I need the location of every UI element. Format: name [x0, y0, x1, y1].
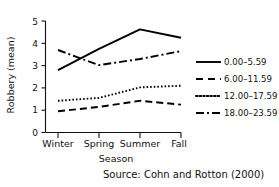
- y-tick-label-0: 0: [32, 128, 38, 138]
- robbery-season-line-chart: Robbery (mean) 5 4 3 2 1 0: [0, 0, 279, 187]
- legend-item-6-00-11-59[interactable]: 6.00–11.59: [196, 74, 272, 84]
- x-tick-label-spring: Spring: [84, 138, 115, 149]
- x-tick-label-winter: Winter: [42, 138, 73, 149]
- y-tick-label-2: 2: [32, 83, 38, 93]
- y-tick-label-3: 3: [32, 61, 38, 71]
- legend-item-0-00-5-59[interactable]: 0.00–5.59: [196, 57, 267, 67]
- figure-container: Robbery (mean) 5 4 3 2 1 0: [0, 0, 279, 187]
- series-line-12-00-17-59: [58, 86, 181, 101]
- legend-item-12-00-17-59[interactable]: 12.00–17.59: [196, 91, 278, 101]
- y-axis-title: Robbery (mean): [5, 37, 16, 114]
- series-line-0-00-5-59: [58, 29, 181, 70]
- legend-label-0-00-5-59: 0.00–5.59: [224, 57, 267, 67]
- y-tick-label-5: 5: [32, 17, 38, 27]
- legend-item-18-00-23-59[interactable]: 18.00–23.59: [196, 108, 278, 118]
- series-line-6-00-11-59: [58, 101, 181, 112]
- legend-label-18-00-23-59: 18.00–23.59: [224, 108, 278, 118]
- x-tick-label-summer: Summer: [120, 138, 160, 149]
- legend: 0.00–5.59 6.00–11.59 12.00–17.59 18.00–2…: [196, 57, 278, 118]
- series-line-18-00-23-59: [58, 50, 181, 65]
- x-axis-title: Season: [99, 153, 133, 164]
- x-tick-label-fall: Fall: [171, 138, 187, 149]
- y-tick-label-4: 4: [32, 39, 38, 49]
- y-tick-label-1: 1: [32, 105, 38, 115]
- legend-label-6-00-11-59: 6.00–11.59: [224, 74, 272, 84]
- source-note: Source: Cohn and Rotton (2000): [103, 169, 264, 180]
- legend-label-12-00-17-59: 12.00–17.59: [224, 91, 278, 101]
